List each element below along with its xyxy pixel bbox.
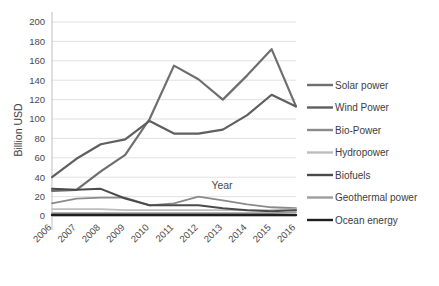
y-tick-label: 60: [34, 152, 45, 163]
y-tick-label: 40: [34, 172, 45, 183]
x-axis-title: Year: [211, 179, 233, 191]
legend-label-hydropower: Hydropower: [335, 147, 390, 158]
y-tick-label: 120: [29, 94, 45, 105]
chart-canvas: 020406080100120140160180200 200620072008…: [0, 0, 439, 286]
chart-legend: Solar powerWind PowerBio-PowerHydropower…: [307, 80, 418, 226]
y-tick-label: 140: [29, 75, 45, 86]
x-tick-label: 2012: [177, 222, 200, 245]
y-tick-label: 20: [34, 191, 45, 202]
legend-label-biofuels: Biofuels: [335, 170, 371, 181]
y-axis-title: Billion USD: [12, 103, 24, 157]
y-tick-label: 180: [29, 36, 45, 47]
x-tick-label: 2007: [55, 222, 78, 245]
legend-label-geothermal-power: Geothermal power: [335, 192, 418, 203]
x-tick-label: 2015: [250, 222, 273, 245]
x-tick-label: 2008: [79, 222, 102, 245]
y-axis: 020406080100120140160180200: [29, 12, 52, 230]
y-tick-label: 200: [29, 16, 45, 27]
series-line-biofuels: [52, 189, 296, 211]
in-plot-label: Year: [211, 179, 233, 191]
x-tick-label: 2010: [128, 222, 151, 245]
x-tick-label: 2016: [275, 222, 298, 245]
x-tick-label: 2006: [31, 222, 54, 245]
series-lines: [52, 49, 296, 215]
x-tick-label: 2014: [226, 222, 249, 245]
y-tick-label: 0: [40, 210, 45, 221]
x-axis: 2006200720082009201020112012201320142015…: [31, 222, 298, 245]
legend-label-ocean-energy: Ocean energy: [335, 215, 398, 226]
x-tick-label: 2009: [104, 222, 127, 245]
line-chart: 020406080100120140160180200 200620072008…: [0, 0, 439, 286]
x-tick-label: 2011: [153, 222, 175, 244]
legend-label-wind-power: Wind Power: [335, 102, 390, 113]
y-tick-label: 80: [34, 133, 45, 144]
x-tick-label: 2013: [201, 222, 224, 245]
series-line-solar-power: [52, 49, 296, 191]
series-line-geothermal-power: [52, 212, 296, 213]
series-line-bio-power: [52, 197, 296, 209]
y-tick-label: 160: [29, 55, 45, 66]
y-tick-label: 100: [29, 113, 45, 124]
legend-label-bio-power: Bio-Power: [335, 125, 382, 136]
legend-label-solar-power: Solar power: [335, 80, 389, 91]
gridlines: [52, 22, 296, 216]
series-line-wind-power: [52, 95, 296, 177]
